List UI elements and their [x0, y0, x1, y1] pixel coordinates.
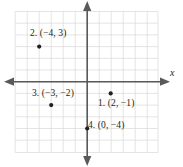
- point-label-4: 4. (0, −4): [88, 121, 124, 131]
- point-1: [109, 91, 113, 95]
- y-axis-arrow-up: [83, 1, 91, 11]
- x-axis-arrow-right: [160, 78, 170, 86]
- x-axis-label: x: [170, 68, 174, 78]
- point-label-1: 1. (2, −1): [98, 99, 134, 109]
- point-2: [37, 45, 41, 49]
- coordinate-plane-graphic: [0, 0, 183, 167]
- point-label-3: 3. (−3, −2): [32, 89, 74, 99]
- y-axis-arrow-down: [83, 156, 91, 166]
- x-axis-arrow-left: [4, 78, 14, 86]
- coordinate-plane-figure: 2. (−4, 3) 3. (−3, −2) 1. (2, −1) 4. (0,…: [0, 0, 183, 167]
- y-axis: [83, 1, 91, 166]
- point-label-2: 2. (−4, 3): [30, 29, 66, 39]
- point-3: [49, 103, 53, 107]
